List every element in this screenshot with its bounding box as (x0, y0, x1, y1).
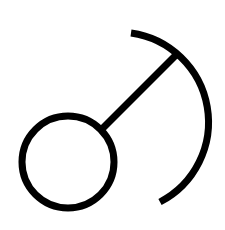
ball-circle (22, 116, 114, 208)
ball-and-stick-arc-icon (22, 33, 209, 208)
symbol-canvas (0, 0, 225, 230)
stick-line (103, 55, 176, 128)
